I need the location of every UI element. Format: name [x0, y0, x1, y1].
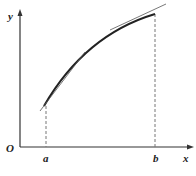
y-axis-arrow-icon	[18, 9, 23, 16]
tangent-line-b	[110, 4, 166, 30]
tangent-line-a	[40, 52, 85, 111]
x-axis-arrow-icon	[187, 145, 194, 150]
curve	[44, 14, 155, 106]
point-a-label: a	[43, 152, 49, 164]
integral-diagram: y O a b x	[0, 0, 196, 176]
y-axis-label: y	[6, 10, 13, 22]
origin-label: O	[6, 142, 14, 154]
point-b-label: b	[153, 152, 159, 164]
x-axis-label: x	[182, 152, 189, 164]
